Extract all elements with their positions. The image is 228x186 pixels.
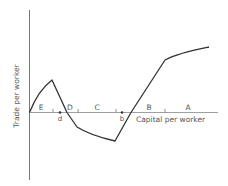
region-label-e: E <box>39 103 44 112</box>
region-label-c: C <box>94 103 99 112</box>
trade-curve <box>30 47 210 141</box>
region-label-a: A <box>185 103 191 112</box>
point-label-d: d <box>58 115 62 123</box>
point-b-marker <box>121 111 124 114</box>
x-axis-label: Capital per worker <box>136 115 206 124</box>
y-axis-label: Trade per worker <box>12 63 21 128</box>
trade-capital-diagram: E D C B A d b Capital per worker Trade p… <box>0 0 228 186</box>
region-label-b: B <box>146 103 151 112</box>
region-label-d: D <box>67 103 73 112</box>
point-d-marker <box>59 111 62 114</box>
point-label-b: b <box>120 115 125 123</box>
